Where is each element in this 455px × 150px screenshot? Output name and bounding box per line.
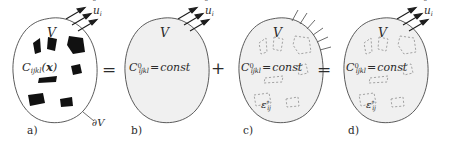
- material-arg-a: x: [46, 60, 53, 74]
- material-sub-a: ijkl: [31, 66, 42, 75]
- panel-d: V C0ijkl = const ε*ij ̂ui d): [333, 0, 455, 150]
- material-law-b: C0ijkl = const: [129, 62, 190, 75]
- panel-label-b: b): [131, 124, 142, 136]
- material-sub-b: ijkl: [139, 67, 149, 75]
- material-paren-close-a: ): [53, 60, 58, 74]
- material-law-d: C0ijkl = const: [346, 62, 407, 75]
- figure-canvas: V Cijkl(x) ∂V ̂ui a) = V C0ijkl = con: [0, 0, 455, 150]
- traction-label-d: ̂ui: [424, 5, 433, 17]
- panel-label-c: c): [243, 124, 253, 136]
- material-law-a: Cijkl(x): [22, 62, 57, 74]
- panel-label-d: d): [348, 124, 359, 136]
- traction-hat-wrap-d: ̂u: [424, 5, 431, 16]
- traction-label-b: ̂ui: [205, 5, 214, 17]
- operator-equals-2: =: [317, 61, 331, 78]
- operator-equals-1: =: [102, 61, 116, 78]
- traction-hat-wrap-a: ̂u: [93, 5, 100, 16]
- eigenstrain-label-d: ε*ij: [366, 100, 376, 111]
- volume-label-b: V: [160, 27, 169, 40]
- eigenstrain-label-c: ε*ij: [261, 100, 271, 111]
- material-law-c: C0ijkl = const: [241, 62, 302, 75]
- material-sub-c: ijkl: [251, 67, 261, 75]
- volume-label-d: V: [378, 27, 387, 40]
- traction-symbol-a: u: [93, 4, 100, 16]
- volume-label-c: V: [273, 27, 282, 40]
- traction-sub-d: i: [431, 10, 433, 18]
- material-rhs-c: const: [272, 61, 302, 74]
- material-sub-d: ijkl: [356, 67, 366, 75]
- eigenstrain-sub-d: ij: [372, 104, 376, 111]
- traction-sub-a: i: [100, 10, 102, 18]
- traction-sub-b: i: [212, 10, 214, 18]
- eigenstrain-sub-c: ij: [267, 104, 271, 111]
- material-rhs-b: const: [160, 61, 190, 74]
- traction-symbol-d: u: [424, 4, 431, 16]
- traction-label-a: ̂ui: [93, 5, 102, 17]
- equals-glyph-b: =: [149, 61, 160, 74]
- material-symbol-a: C: [22, 60, 31, 74]
- panel-a: V Cijkl(x) ∂V ̂ui a): [0, 0, 110, 150]
- panel-b: V C0ijkl = const ̂ui b): [116, 0, 216, 150]
- boundary-label-a: ∂V: [92, 118, 104, 128]
- operator-plus-1: +: [211, 60, 225, 77]
- equals-glyph-c: =: [261, 61, 272, 74]
- equals-glyph-d: =: [366, 61, 377, 74]
- traction-hat-wrap-b: ̂u: [205, 5, 212, 16]
- panel-label-a: a): [27, 124, 38, 136]
- material-rhs-d: const: [377, 61, 407, 74]
- traction-symbol-b: u: [205, 4, 212, 16]
- volume-label-a: V: [47, 27, 56, 40]
